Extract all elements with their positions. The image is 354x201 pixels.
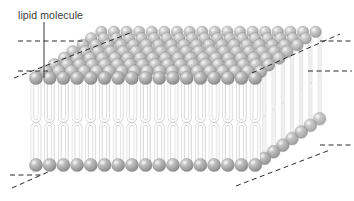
- lipid-head-sphere: [221, 158, 234, 171]
- lipid-head-group: [208, 158, 221, 171]
- lipid-head-group: [43, 71, 56, 84]
- lipid-head-sphere: [235, 158, 248, 171]
- lipid-head-group: [194, 158, 207, 171]
- lipid-head-group: [57, 158, 70, 171]
- lipid-head-sphere: [166, 71, 179, 84]
- lipid-head-group: [310, 26, 322, 38]
- lipid-head-group: [71, 71, 84, 84]
- lipid-head-sphere: [57, 71, 70, 84]
- lipid-head-group: [153, 71, 166, 84]
- lipid-head-group: [166, 71, 179, 84]
- lipid-head-group: [291, 39, 303, 51]
- lipid-head-sphere: [194, 71, 207, 84]
- lipid-molecule-label: lipid molecule: [18, 9, 83, 21]
- lipid-head-sphere: [310, 26, 322, 38]
- lipid-head-sphere: [180, 158, 193, 171]
- lipid-head-sphere: [125, 71, 138, 84]
- lipid-head-group: [249, 71, 262, 84]
- lipid-head-sphere: [208, 71, 221, 84]
- lipid-head-sphere: [125, 158, 138, 171]
- lipid-head-group: [139, 158, 152, 171]
- lipid-head-sphere: [139, 158, 152, 171]
- lipid-head-sphere: [139, 71, 152, 84]
- lipid-head-sphere: [98, 158, 111, 171]
- lipid-head-group: [180, 158, 193, 171]
- lipid-head-sphere: [29, 71, 42, 84]
- lipid-head-group: [112, 158, 125, 171]
- lipid-head-sphere: [98, 71, 111, 84]
- lipid-head-group: [235, 158, 248, 171]
- lipid-head-group: [221, 71, 234, 84]
- lipid-head-group: [166, 158, 179, 171]
- lipid-head-group: [180, 71, 193, 84]
- lipid-head-sphere: [57, 158, 70, 171]
- lipid-head-sphere: [208, 158, 221, 171]
- lipid-head-group: [84, 71, 97, 84]
- lipid-head-sphere: [71, 71, 84, 84]
- lipid-bilayer-figure: lipid molecule: [0, 0, 354, 201]
- lipid-head-group: [98, 71, 111, 84]
- lipid-head-sphere: [221, 71, 234, 84]
- lipid-head-group: [208, 71, 221, 84]
- lipid-head-group: [125, 71, 138, 84]
- lipid-head-group: [139, 71, 152, 84]
- lipid-head-sphere: [166, 158, 179, 171]
- lipid-head-sphere: [43, 158, 56, 171]
- lipid-head-group: [249, 158, 262, 171]
- bilayer-svg-canvas: lipid molecule: [0, 0, 354, 201]
- lipid-head-sphere: [29, 158, 42, 171]
- lipid-head-group: [71, 158, 84, 171]
- lipid-head-sphere: [153, 71, 166, 84]
- lipid-head-sphere: [235, 71, 248, 84]
- lipid-head-sphere: [84, 158, 97, 171]
- lower-leaflet-heads: [29, 158, 261, 171]
- lipid-head-group: [84, 158, 97, 171]
- lipid-head-sphere: [71, 158, 84, 171]
- lipid-head-group: [98, 158, 111, 171]
- lipid-head-group: [43, 158, 56, 171]
- lipid-head-group: [29, 158, 42, 171]
- lipid-head-group: [235, 71, 248, 84]
- lipid-head-group: [112, 71, 125, 84]
- lipid-head-sphere: [194, 158, 207, 171]
- lipid-head-group: [153, 158, 166, 171]
- lipid-head-sphere: [153, 158, 166, 171]
- lipid-head-group: [221, 158, 234, 171]
- lipid-head-sphere: [84, 71, 97, 84]
- lipid-head-group: [194, 71, 207, 84]
- lipid-head-sphere: [249, 71, 262, 84]
- lipid-head-sphere: [291, 39, 303, 51]
- lipid-head-sphere: [249, 158, 262, 171]
- lipid-head-group: [57, 71, 70, 84]
- upper-leaflet-heads: [29, 71, 261, 84]
- lipid-head-group: [29, 71, 42, 84]
- lipid-head-sphere: [180, 71, 193, 84]
- lipid-head-sphere: [112, 71, 125, 84]
- lipid-head-sphere: [112, 158, 125, 171]
- lipid-head-group: [125, 158, 138, 171]
- lipid-head-sphere: [43, 71, 56, 84]
